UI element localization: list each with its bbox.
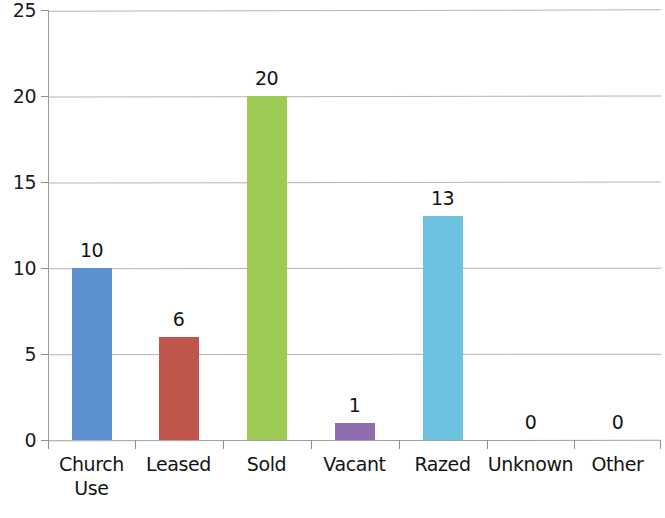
x-axis-ticks (48, 440, 661, 450)
bar-church-use[interactable] (72, 268, 112, 440)
bar-vacant[interactable] (335, 423, 375, 440)
bar-value-vacant: 1 (349, 396, 361, 415)
x-axis-label-vacant: Vacant (311, 452, 398, 476)
y-axis-tick-label-20: 20 (2, 87, 36, 106)
bar-leased[interactable] (159, 337, 199, 440)
x-axis-tick-4 (399, 440, 400, 449)
y-axis-tick-label-10: 10 (2, 259, 36, 278)
bar-group-unknown: 0 (487, 10, 574, 440)
x-axis-labels: Church Use Leased Sold Vacant Razed Unkn… (48, 452, 661, 512)
x-axis-tick-1 (135, 440, 136, 449)
bar-group-razed: 13 (399, 10, 486, 440)
bar-razed[interactable] (423, 216, 463, 440)
bar-group-leased: 6 (135, 10, 222, 440)
x-axis-label-leased: Leased (135, 452, 222, 476)
bar-value-other: 0 (612, 413, 624, 432)
x-axis-tick-6 (574, 440, 575, 449)
x-axis-tick-7 (660, 440, 661, 449)
x-axis-tick-2 (223, 440, 224, 449)
x-axis-tick-3 (311, 440, 312, 449)
bar-value-sold: 20 (255, 69, 278, 88)
bar-group-church-use: 10 (48, 10, 135, 440)
y-axis-tick-label-25: 25 (2, 1, 36, 20)
bar-group-sold: 20 (223, 10, 310, 440)
x-axis-tick-5 (487, 440, 488, 449)
bar-chart-figure: 25 20 15 10 5 0 10 6 20 (0, 0, 665, 518)
x-axis-label-other: Other (574, 452, 661, 476)
x-axis-label-unknown: Unknown (487, 452, 574, 476)
bar-value-razed: 13 (431, 189, 454, 208)
x-axis-tick-0 (48, 440, 49, 449)
x-axis-label-church-use-line2: Use (48, 476, 135, 500)
bar-value-church-use: 10 (80, 241, 103, 260)
y-axis-tick-label-5: 5 (2, 345, 36, 364)
x-axis-label-sold: Sold (223, 452, 310, 476)
bars-layer: 10 6 20 1 13 0 0 (48, 10, 661, 440)
bar-group-vacant: 1 (311, 10, 398, 440)
bar-group-other: 0 (574, 10, 661, 440)
y-axis-tick-label-0: 0 (2, 431, 36, 450)
y-axis-tick-label-15: 15 (2, 173, 36, 192)
x-axis-label-razed: Razed (399, 452, 486, 476)
x-axis-label-church-use-line1: Church (59, 453, 124, 475)
bar-value-unknown: 0 (525, 413, 537, 432)
bar-sold[interactable] (247, 96, 287, 440)
bar-value-leased: 6 (173, 310, 185, 329)
x-axis-label-church-use: Church Use (48, 452, 135, 500)
